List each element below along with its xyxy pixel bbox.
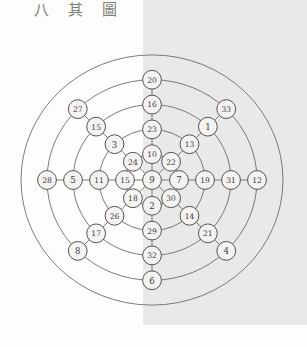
node-ne-3[interactable]: 1 xyxy=(198,117,217,136)
node-s-3-circle xyxy=(143,246,162,265)
node-s-4[interactable]: 6 xyxy=(143,271,162,290)
node-w-4-circle xyxy=(38,171,57,190)
node-sw-2[interactable]: 26 xyxy=(105,206,124,225)
node-s-2-circle xyxy=(143,221,162,240)
node-e-2-circle xyxy=(196,171,215,190)
node-se-2[interactable]: 14 xyxy=(180,206,199,225)
node-w-4[interactable]: 28 xyxy=(38,171,57,190)
node-nw-4[interactable]: 27 xyxy=(68,100,87,119)
node-s-2[interactable]: 29 xyxy=(143,221,162,240)
node-e-4[interactable]: 12 xyxy=(248,171,267,190)
node-sw-1-circle xyxy=(124,189,143,208)
ring-diagram-svg: 1511528243152710231620221313371931123014… xyxy=(0,0,307,347)
node-sw-3[interactable]: 17 xyxy=(87,224,106,243)
node-sw-3-circle xyxy=(87,224,106,243)
node-s-1[interactable]: 2 xyxy=(143,196,162,215)
node-e-1[interactable]: 7 xyxy=(170,171,189,190)
node-n-4-circle xyxy=(143,70,162,89)
node-w-1[interactable]: 15 xyxy=(116,171,135,190)
node-s-3[interactable]: 32 xyxy=(143,246,162,265)
node-w-2[interactable]: 11 xyxy=(90,171,109,190)
node-se-4-circle xyxy=(217,242,236,261)
node-w-3[interactable]: 5 xyxy=(64,171,83,190)
node-sw-4[interactable]: 8 xyxy=(68,242,87,261)
node-nw-2-circle xyxy=(105,135,124,154)
node-center-circle xyxy=(143,171,162,190)
node-nw-1-circle xyxy=(124,152,143,171)
node-n-1[interactable]: 10 xyxy=(143,145,162,164)
node-n-2-circle xyxy=(143,120,162,139)
ring-diagram: 1511528243152710231620221313371931123014… xyxy=(0,0,307,347)
node-n-3-circle xyxy=(143,95,162,114)
node-ne-1[interactable]: 22 xyxy=(162,152,181,171)
node-nw-3[interactable]: 15 xyxy=(87,117,106,136)
node-n-2[interactable]: 23 xyxy=(143,120,162,139)
node-e-4-circle xyxy=(248,171,267,190)
node-ne-4-circle xyxy=(217,100,236,119)
node-sw-4-circle xyxy=(68,242,87,261)
node-e-2[interactable]: 19 xyxy=(196,171,215,190)
node-n-3[interactable]: 16 xyxy=(143,95,162,114)
node-ne-4[interactable]: 33 xyxy=(217,100,236,119)
node-ne-2-circle xyxy=(180,135,199,154)
node-se-4[interactable]: 4 xyxy=(217,242,236,261)
node-ne-1-circle xyxy=(162,152,181,171)
node-se-3[interactable]: 21 xyxy=(198,224,217,243)
node-center[interactable]: 9 xyxy=(143,171,162,190)
node-ne-2[interactable]: 13 xyxy=(180,135,199,154)
node-w-2-circle xyxy=(90,171,109,190)
figure-page: 八 其 圖 1511528243152710231620221313371931… xyxy=(0,0,307,347)
node-n-4[interactable]: 20 xyxy=(143,70,162,89)
node-s-4-circle xyxy=(143,271,162,290)
node-w-1-circle xyxy=(116,171,135,190)
node-nw-1[interactable]: 24 xyxy=(124,152,143,171)
node-se-3-circle xyxy=(198,224,217,243)
node-e-1-circle xyxy=(170,171,189,190)
node-nw-4-circle xyxy=(68,100,87,119)
node-n-1-circle xyxy=(143,145,162,164)
node-e-3-circle xyxy=(222,171,241,190)
node-nw-2[interactable]: 3 xyxy=(105,135,124,154)
node-s-1-circle xyxy=(143,196,162,215)
node-se-1-circle xyxy=(162,189,181,208)
nodes-layer: 1511528243152710231620221313371931123014… xyxy=(38,70,267,289)
node-nw-3-circle xyxy=(87,117,106,136)
node-sw-1[interactable]: 18 xyxy=(124,189,143,208)
node-w-3-circle xyxy=(64,171,83,190)
node-ne-3-circle xyxy=(198,117,217,136)
node-se-2-circle xyxy=(180,206,199,225)
node-sw-2-circle xyxy=(105,206,124,225)
node-se-1[interactable]: 30 xyxy=(162,189,181,208)
node-e-3[interactable]: 31 xyxy=(222,171,241,190)
